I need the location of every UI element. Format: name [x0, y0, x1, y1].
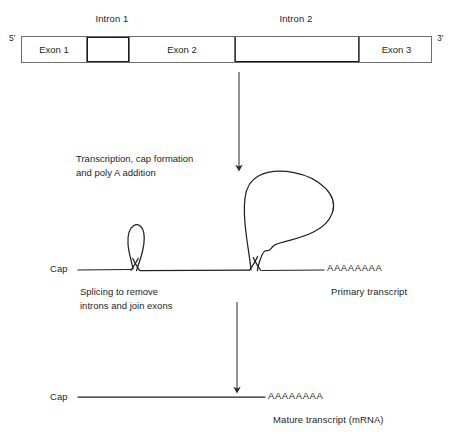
- diagram-vector-overlay: [0, 0, 452, 441]
- primary-transcript-strand: [78, 171, 334, 270]
- splicing-diagram: Intron 1 Intron 2 5' 3' Exon 1 Exon 2 Ex…: [0, 0, 452, 441]
